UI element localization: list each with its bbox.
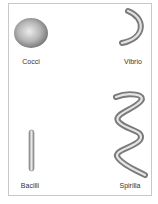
vibrio-shape bbox=[122, 11, 141, 43]
cocci-shape bbox=[14, 18, 48, 48]
label-vibrio: Vibrio bbox=[124, 58, 142, 65]
spirilla-shape bbox=[116, 94, 145, 175]
label-cocci: Cocci bbox=[22, 58, 40, 65]
label-spirilla: Spirilla bbox=[119, 182, 140, 189]
label-bacilli: Bacilli bbox=[21, 182, 39, 189]
bacilli-shape bbox=[29, 130, 34, 171]
bacteria-shapes-illustration bbox=[0, 0, 158, 204]
